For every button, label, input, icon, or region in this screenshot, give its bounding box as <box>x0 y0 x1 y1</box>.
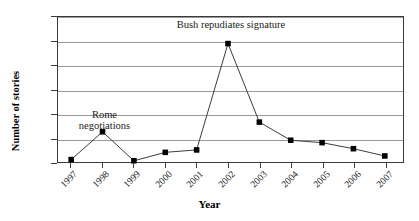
data-series <box>58 17 403 162</box>
y-tick-mark <box>51 16 57 17</box>
x-tick-mark <box>260 163 261 168</box>
x-tick-label: 2000 <box>147 169 174 196</box>
annotation-rome-line-2: negotiations <box>52 120 157 131</box>
x-tick-label: 1998 <box>84 169 111 196</box>
x-tick-mark <box>354 163 355 168</box>
data-point-marker <box>68 157 74 163</box>
x-tick-label: 2003 <box>242 169 269 196</box>
x-axis-title: Year <box>0 198 419 210</box>
data-point-marker <box>288 137 294 143</box>
data-point-marker <box>225 41 231 47</box>
line-chart: Number of stories 020406080100120 199719… <box>0 0 419 221</box>
data-point-marker <box>351 146 357 152</box>
x-tick-label: 1997 <box>52 169 79 196</box>
x-tick-mark <box>323 163 324 168</box>
x-tick-label: 2006 <box>336 169 363 196</box>
y-tick-mark <box>51 41 57 42</box>
annotation-rome-negotiations: Rome negotiations <box>52 109 157 131</box>
y-axis-title: Number of stories <box>10 51 21 171</box>
x-tick-mark <box>291 163 292 168</box>
x-tick-label: 2002 <box>210 169 237 196</box>
x-tick-mark <box>165 163 166 168</box>
x-tick-mark <box>228 163 229 168</box>
x-tick-label: 2001 <box>179 169 206 196</box>
x-tick-label: 1999 <box>116 169 143 196</box>
x-tick-label: 2007 <box>368 169 395 196</box>
x-tick-label: 2005 <box>305 169 332 196</box>
annotation-bush-repudiates-signature: Bush repudiates signature <box>131 19 331 30</box>
y-tick-mark <box>51 90 57 91</box>
data-point-marker <box>162 150 168 156</box>
data-point-marker <box>257 119 263 125</box>
annotation-rome-line-1: Rome <box>92 109 117 120</box>
y-tick-mark <box>51 139 57 140</box>
series-line <box>71 44 385 161</box>
data-point-marker <box>194 147 200 153</box>
data-point-marker <box>319 140 325 146</box>
plot-area <box>57 16 404 163</box>
y-tick-mark <box>51 65 57 66</box>
data-point-marker <box>382 153 388 159</box>
x-tick-mark <box>386 163 387 168</box>
x-tick-label: 2004 <box>273 169 300 196</box>
x-tick-mark <box>133 163 134 168</box>
x-tick-mark <box>102 163 103 168</box>
y-tick-mark <box>51 163 57 164</box>
x-tick-mark <box>70 163 71 168</box>
x-tick-mark <box>196 163 197 168</box>
